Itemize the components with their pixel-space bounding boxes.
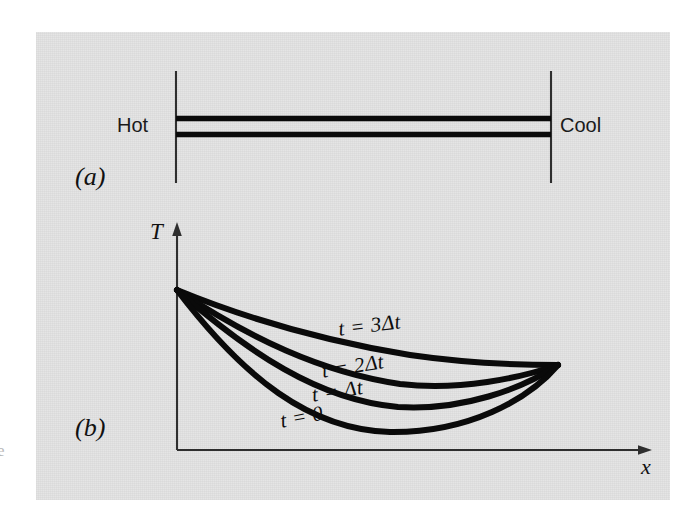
- t-axis-label: T: [150, 219, 163, 245]
- hot-end-label: Hot: [117, 114, 148, 137]
- panel-a-schematic: [176, 71, 551, 183]
- figure-container: Hot Cool (a) (b) T x t = 3Δt t = 2Δt t =…: [0, 0, 693, 530]
- figure-drawing: [0, 0, 693, 530]
- panel-b-plot: [172, 222, 652, 455]
- x-axis-label: x: [641, 454, 651, 480]
- panel-b-tag: (b): [75, 413, 105, 443]
- t-axis-arrowhead: [172, 222, 182, 236]
- panel-a-tag: (a): [75, 162, 105, 192]
- caption-fragment-text: e: [0, 441, 5, 461]
- cool-end-label: Cool: [560, 114, 601, 137]
